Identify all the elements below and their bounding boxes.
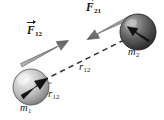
label-mass-1-subscript: 1 xyxy=(28,107,31,114)
label-separation-r12: r12 xyxy=(79,61,90,74)
hat-accent-rhat12: ˆr xyxy=(48,88,52,99)
label-force-f21: F21 xyxy=(86,2,101,15)
mass-1-sphere xyxy=(13,69,49,105)
label-force-f21-symbol: F xyxy=(86,1,94,13)
label-mass-1: m1 xyxy=(20,103,31,114)
physics-diagram-figure: F12 F21 r12 ˆr12 m1 m2 xyxy=(0,0,164,120)
separation-dashed-line xyxy=(43,39,127,81)
label-mass-2: m2 xyxy=(128,47,139,58)
vector-arrow-accent-icon xyxy=(27,22,36,23)
label-force-f12: F12 xyxy=(27,25,42,38)
hat-accent-icon: ˆ xyxy=(49,83,52,92)
label-force-f21-subscript: 21 xyxy=(94,7,101,15)
label-force-f12-symbol: F xyxy=(27,24,35,36)
label-force-f12-subscript: 12 xyxy=(35,30,42,38)
label-mass-1-symbol: m xyxy=(20,102,28,113)
label-mass-2-subscript: 2 xyxy=(136,51,139,58)
mass-2-sphere xyxy=(120,14,156,50)
vector-accent-f21: F xyxy=(86,2,94,14)
vector-accent-f12: F xyxy=(27,25,35,37)
label-unit-vector-subscript: 12 xyxy=(52,93,59,100)
force-f12-arrow xyxy=(21,41,69,68)
label-separation-subscript: 12 xyxy=(83,66,90,73)
label-unit-vector-rhat12: ˆr12 xyxy=(48,88,59,101)
label-mass-2-symbol: m xyxy=(128,46,136,57)
